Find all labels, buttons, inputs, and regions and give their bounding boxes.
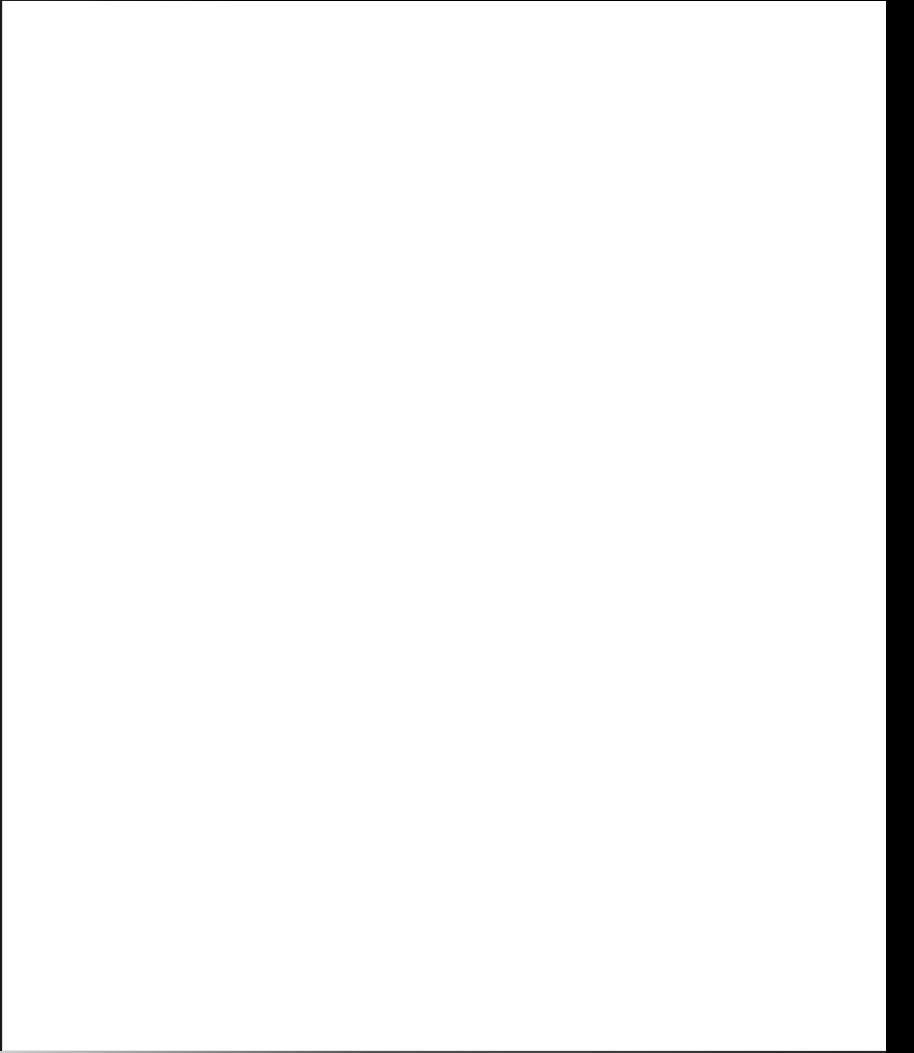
screen-frame <box>0 0 914 1053</box>
top-border <box>0 0 240 1</box>
blank-page-canvas <box>2 1 886 1051</box>
left-border <box>0 0 2 1053</box>
right-black-strip <box>886 0 914 1053</box>
